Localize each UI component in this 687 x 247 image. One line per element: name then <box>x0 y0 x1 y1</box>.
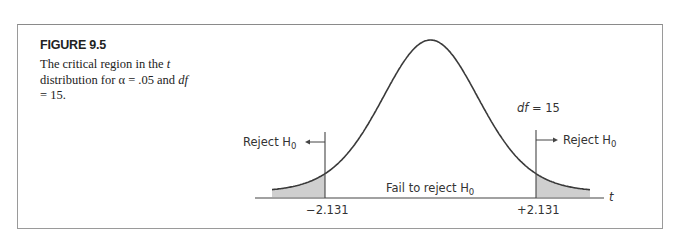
fail-to-reject-label: Fail to reject H0 <box>386 181 474 197</box>
tick-right-label: +2.131 <box>517 203 560 217</box>
reject-left-label: Reject H0 <box>243 135 296 151</box>
tick-left-label: −2.131 <box>306 203 349 217</box>
reject-right-label: Reject H0 <box>563 133 616 149</box>
t-axis-label: t <box>609 190 614 204</box>
df-label: df = 15 <box>517 101 560 115</box>
left-arrowhead-icon <box>305 140 310 145</box>
right-arrowhead-icon <box>553 138 558 143</box>
t-distribution-chart: Reject H0 Reject H0 Fail to reject H0 df… <box>0 0 687 247</box>
